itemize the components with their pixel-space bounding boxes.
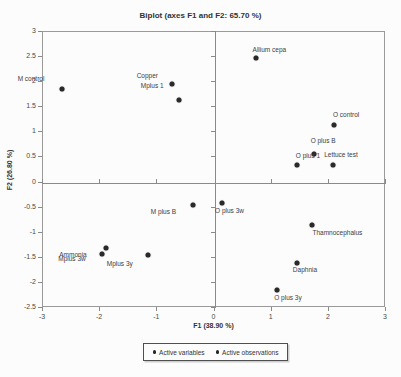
data-point-label: Lettuce test	[324, 150, 358, 157]
data-point-label: Daphnia	[293, 265, 317, 272]
y-axis-tick	[38, 232, 42, 233]
y-tick-label: -1	[30, 228, 36, 235]
x-axis-zero-line	[43, 183, 386, 184]
data-point-label: O plus 1	[296, 151, 320, 158]
x-axis-tick	[271, 307, 272, 311]
legend-item-active-observations: Active observations	[216, 349, 279, 356]
x-tick-label: -3	[34, 313, 50, 320]
chart-title: Biplot (axes F1 and F2: 65.70 %)	[0, 11, 401, 20]
data-point	[310, 222, 315, 227]
y-tick-label: -2	[30, 278, 36, 285]
data-point	[274, 287, 279, 292]
x-axis-tick	[385, 307, 386, 311]
data-point	[332, 123, 337, 128]
data-point-label: O plus B	[311, 137, 336, 144]
x-axis-title: F1 (38.90 %)	[42, 322, 385, 329]
x-tick-label: -2	[91, 313, 107, 320]
data-point-label: Thamnocephalus	[312, 228, 362, 235]
y-axis-tick	[38, 106, 42, 107]
y-axis-tick	[38, 131, 42, 132]
x-crosshair-tick	[156, 179, 157, 184]
data-point-label: M plus B	[151, 207, 176, 214]
y-tick-label: -2.5	[24, 303, 36, 310]
y-axis-tick	[38, 207, 42, 208]
data-point	[294, 162, 299, 167]
y-axis-tick	[38, 156, 42, 157]
y-crosshair-tick	[211, 56, 216, 57]
y-axis-tick	[38, 31, 42, 32]
y-crosshair-tick	[211, 257, 216, 258]
data-point	[330, 162, 335, 167]
x-axis-tick	[99, 307, 100, 311]
data-point-label: O control	[333, 111, 359, 118]
y-axis-tick	[38, 56, 42, 57]
y-crosshair-tick	[211, 156, 216, 157]
x-crosshair-tick	[99, 179, 100, 184]
data-point	[60, 86, 65, 91]
data-point	[100, 251, 105, 256]
x-tick-label: 2	[320, 313, 336, 320]
legend-item-active-variables: Active variables	[153, 349, 205, 356]
x-axis-tick	[328, 307, 329, 311]
data-point	[177, 97, 182, 102]
biplot-figure: Biplot (axes F1 and F2: 65.70 %) F1 (38.…	[0, 0, 401, 377]
y-crosshair-tick	[211, 31, 216, 32]
y-axis-tick	[38, 257, 42, 258]
y-tick-label: 0.5	[26, 152, 36, 159]
y-crosshair-tick	[211, 81, 216, 82]
data-point-label: Copper	[137, 71, 158, 78]
y-tick-label: 1	[32, 127, 36, 134]
y-axis-title: F2 (26.80 %)	[6, 150, 13, 190]
data-point-label: Allium cepa	[253, 45, 287, 52]
y-axis-tick	[38, 81, 42, 82]
data-point-label: O plus 3y	[274, 293, 301, 300]
x-crosshair-tick	[271, 179, 272, 184]
legend: Active variables Active observations	[143, 343, 288, 361]
legend-label: Active variables	[159, 349, 205, 356]
plot-area	[42, 31, 385, 307]
x-axis-tick	[214, 307, 215, 311]
x-crosshair-tick	[42, 179, 43, 184]
data-point	[191, 202, 196, 207]
y-tick-label: 0	[32, 178, 36, 185]
y-crosshair-tick	[211, 282, 216, 283]
legend-label: Active observations	[222, 349, 278, 356]
dot-marker-icon	[216, 350, 220, 354]
x-crosshair-tick	[385, 179, 386, 184]
data-point-label: Mplus 3w	[58, 254, 85, 261]
data-point	[104, 246, 109, 251]
y-crosshair-tick	[211, 106, 216, 107]
y-axis-tick	[38, 282, 42, 283]
y-tick-label: 1.5	[26, 102, 36, 109]
dot-marker-icon	[153, 350, 157, 354]
y-crosshair-tick	[211, 232, 216, 233]
x-tick-label: -1	[148, 313, 164, 320]
y-tick-label: 3	[32, 27, 36, 34]
x-axis-tick	[156, 307, 157, 311]
y-tick-label: -1.5	[24, 253, 36, 260]
x-tick-label: 3	[377, 313, 393, 320]
y-tick-label: -0.5	[24, 203, 36, 210]
data-point-label: Mplus 1	[141, 81, 164, 88]
data-point-label: M control	[18, 74, 45, 81]
x-tick-label: 0	[206, 313, 222, 320]
data-point	[219, 200, 224, 205]
y-tick-label: 2.5	[26, 52, 36, 59]
y-axis-zero-line	[215, 32, 216, 308]
data-point	[145, 252, 150, 257]
data-point-label: Mplus 3y	[107, 259, 133, 266]
data-point	[170, 81, 175, 86]
x-crosshair-tick	[328, 179, 329, 184]
x-axis-tick	[42, 307, 43, 311]
x-tick-label: 1	[263, 313, 279, 320]
y-crosshair-tick	[211, 131, 216, 132]
data-point	[254, 55, 259, 60]
data-point-label: O plus 3w	[215, 206, 244, 213]
